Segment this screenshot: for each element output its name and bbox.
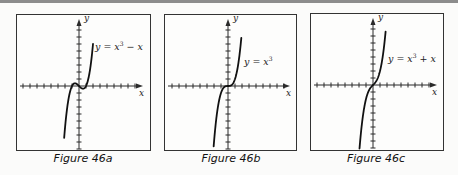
equation-label: y = x3 + x [388,52,436,64]
figure-caption: Figure 46c [326,152,426,165]
x-axis-label: x [432,87,437,97]
y-axis-label: y [378,12,383,22]
plot-46c [0,0,458,175]
figure-46c: y = x3 + x y x Figure 46c [0,0,458,175]
